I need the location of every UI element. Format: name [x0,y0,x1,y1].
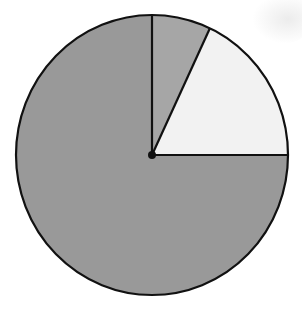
pie-chart [0,0,302,312]
center-dot [148,151,156,159]
pie-chart-svg [0,0,302,312]
